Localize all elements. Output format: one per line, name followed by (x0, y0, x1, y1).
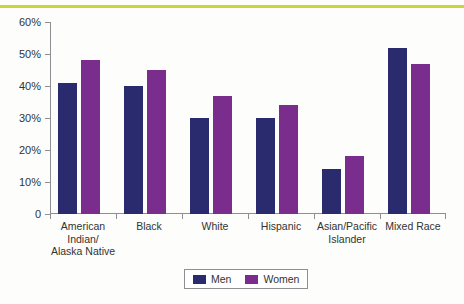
category-label-line: Alaska Native (50, 245, 116, 258)
plot-area: 010%20%30%40%50%60% (50, 22, 446, 214)
x-axis-tick (380, 214, 381, 219)
x-axis-tick (50, 214, 51, 219)
bar-men (124, 86, 143, 214)
legend-label: Men (211, 273, 231, 285)
category-label-line: Asian/Pacific (314, 220, 380, 233)
bar-women (279, 105, 298, 214)
bar-women (147, 70, 166, 214)
bar-women (411, 64, 430, 214)
category-label: AmericanIndian/Alaska Native (50, 220, 116, 258)
y-axis-tick-label: 40% (19, 80, 41, 92)
category-label-line: American (50, 220, 116, 233)
top-accent-rule (0, 5, 464, 8)
x-axis-tick (116, 214, 117, 219)
bar-group (116, 22, 182, 214)
category-label: White (182, 220, 248, 233)
chart-legend: MenWomen (184, 269, 308, 289)
category-label-line: Indian/ (50, 233, 116, 246)
y-axis-tick-label: 20% (19, 144, 41, 156)
category-label-line: Black (116, 220, 182, 233)
x-axis-tick (182, 214, 183, 219)
legend-swatch-men (193, 275, 206, 284)
bar-men (322, 169, 341, 214)
legend-entry-women: Women (245, 273, 299, 285)
category-label: Asian/PacificIslander (314, 220, 380, 245)
legend-entry-men: Men (193, 273, 231, 285)
y-axis-tick-label: 30% (19, 112, 41, 124)
y-axis-tick-label: 0 (35, 208, 41, 220)
bar-group (50, 22, 116, 214)
bar-men (58, 83, 77, 214)
x-axis-tick (445, 214, 446, 219)
bar-group (248, 22, 314, 214)
bar-women (345, 156, 364, 214)
bar-group (182, 22, 248, 214)
x-axis-tick (314, 214, 315, 219)
bar-men (388, 48, 407, 214)
category-label-line: Hispanic (248, 220, 314, 233)
legend-swatch-women (245, 275, 258, 284)
category-label: Mixed Race (380, 220, 446, 233)
bar-men (190, 118, 209, 214)
bar-women (213, 96, 232, 214)
category-label: Hispanic (248, 220, 314, 233)
category-label-line: White (182, 220, 248, 233)
category-label: Black (116, 220, 182, 233)
y-axis-tick-label: 10% (19, 176, 41, 188)
category-label-line: Islander (314, 233, 380, 246)
y-axis-tick-label: 50% (19, 48, 41, 60)
bar-men (256, 118, 275, 214)
x-axis-tick (248, 214, 249, 219)
bar-group (380, 22, 446, 214)
bar-group (314, 22, 380, 214)
y-axis-tick-label: 60% (19, 16, 41, 28)
legend-label: Women (263, 273, 299, 285)
bar-women (81, 60, 100, 214)
bar-chart-figure: 010%20%30%40%50%60% AmericanIndian/Alask… (0, 0, 464, 304)
category-label-line: Mixed Race (380, 220, 446, 233)
